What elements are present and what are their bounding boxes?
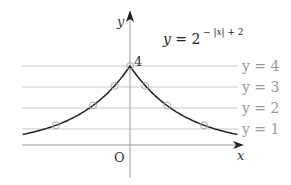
peak-label: 4 <box>134 54 142 69</box>
svg-text:y = 2: y = 2 <box>162 31 200 47</box>
reference-label-y4: y = 4 <box>241 58 280 74</box>
origin-label: O <box>114 150 125 165</box>
equation-exponent: − |x| + 2 <box>203 27 244 38</box>
reference-label-y1: y = 1 <box>241 121 279 137</box>
reference-label-y2: y = 2 <box>241 100 279 116</box>
equation-label: y = 2 − |x| + 2 <box>162 27 244 47</box>
x-axis-label: x <box>237 148 245 163</box>
reference-labels: y = 4 y = 3 y = 2 y = 1 <box>241 58 280 137</box>
y-axis-label: y <box>116 14 125 29</box>
reference-label-y3: y = 3 <box>241 79 279 95</box>
chart-canvas: y x O 4 y = 2 − |x| + 2 y = 4 y = 3 y = … <box>0 0 291 185</box>
